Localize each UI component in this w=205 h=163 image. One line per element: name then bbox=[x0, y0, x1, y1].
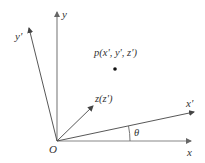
theta-label: θ bbox=[134, 127, 139, 138]
z-axis bbox=[57, 106, 93, 141]
coordinate-rotation-diagram: y y' p(x', y', z') z(z') x' θ O x bbox=[0, 0, 205, 163]
x-prime-axis bbox=[57, 112, 194, 141]
z-axis-label: z(z') bbox=[94, 93, 113, 105]
x-axis-label: x bbox=[186, 146, 192, 158]
x-prime-axis-label: x' bbox=[185, 97, 194, 109]
y-axis-label: y bbox=[61, 8, 67, 20]
point-p bbox=[113, 67, 117, 71]
theta-arc bbox=[129, 126, 131, 141]
y-prime-axis bbox=[29, 28, 57, 141]
y-prime-axis-label: y' bbox=[14, 30, 23, 42]
point-p-label: p(x', y', z') bbox=[93, 47, 137, 59]
origin-label: O bbox=[49, 143, 57, 155]
